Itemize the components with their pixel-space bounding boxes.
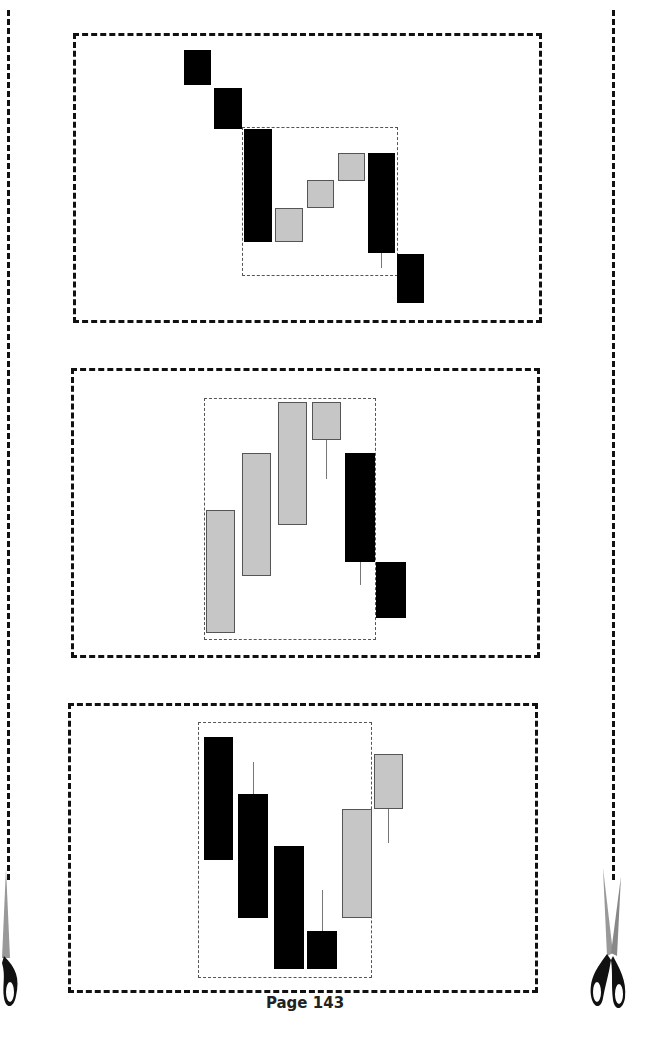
bullish-candle [307, 180, 334, 208]
bearish-candle [376, 562, 406, 618]
bullish-candle [342, 809, 372, 918]
cut-line-right [612, 10, 615, 880]
candle-wick [381, 253, 382, 268]
bearish-candle [214, 88, 242, 129]
bullish-candle [338, 153, 365, 181]
bearish-candle [345, 453, 375, 562]
bearish-candle [368, 153, 395, 253]
scissors-icon [0, 868, 32, 1018]
bullish-candle [206, 510, 235, 633]
bearish-candle [244, 129, 272, 242]
page-number: Page 143 [0, 994, 610, 1012]
candle-wick [326, 440, 327, 479]
bearish-candle [274, 846, 304, 969]
bearish-candle [204, 737, 233, 860]
candle-wick [253, 762, 254, 794]
candle-wick [360, 562, 361, 585]
bearish-candle [397, 254, 424, 303]
bullish-candle [374, 754, 403, 809]
bullish-candle [275, 208, 303, 242]
candle-wick [322, 890, 323, 931]
cut-line-left [7, 10, 10, 880]
bullish-candle [242, 453, 271, 576]
bearish-candle [307, 931, 337, 969]
candle-wick [388, 809, 389, 843]
bullish-candle [312, 402, 341, 440]
bullish-candle [278, 402, 307, 525]
bearish-candle [184, 50, 211, 85]
scissors-icon [585, 868, 635, 1018]
bearish-candle [238, 794, 268, 918]
